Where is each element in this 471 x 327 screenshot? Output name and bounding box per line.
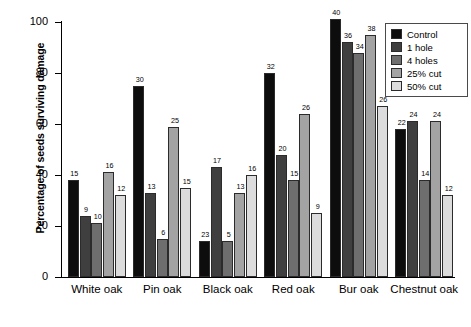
bar[interactable]: 15 — [288, 180, 299, 277]
bar[interactable]: 22 — [395, 129, 406, 277]
bar[interactable]: 23 — [199, 241, 210, 277]
bar[interactable]: 26 — [377, 106, 388, 277]
bar[interactable]: 25 — [168, 127, 179, 277]
y-tick-label: 80 — [0, 66, 48, 78]
bar-group: 159101612 — [68, 22, 126, 277]
bar-value-label: 24 — [426, 111, 448, 119]
bar-group: 322015269 — [264, 22, 322, 277]
bar[interactable]: 38 — [365, 35, 376, 277]
bar[interactable]: 12 — [115, 195, 126, 277]
bar[interactable]: 10 — [91, 223, 102, 277]
bar[interactable]: 26 — [299, 114, 310, 277]
bar[interactable]: 32 — [264, 73, 275, 277]
bar-value-label: 16 — [98, 162, 120, 170]
legend-swatch-icon — [391, 68, 402, 78]
bar-value-label: 12 — [438, 185, 460, 193]
bar[interactable]: 14 — [419, 180, 430, 277]
bar-value-label: 17 — [206, 157, 228, 165]
legend-label: 4 holes — [407, 55, 438, 66]
bar[interactable]: 17 — [211, 167, 222, 277]
bar-value-label: 30 — [129, 76, 151, 84]
bar[interactable]: 12 — [442, 195, 453, 277]
bar-value-label: 12 — [110, 185, 132, 193]
bar[interactable]: 9 — [80, 216, 91, 277]
y-tick-label: 40 — [0, 168, 48, 180]
bar[interactable]: 34 — [353, 53, 364, 277]
bar[interactable]: 36 — [342, 42, 353, 277]
y-tick-label: 100 — [0, 15, 48, 27]
x-axis-line — [61, 277, 455, 278]
bar[interactable]: 9 — [311, 213, 322, 277]
legend-swatch-icon — [391, 81, 402, 91]
bar-value-label: 25 — [164, 117, 186, 125]
bar[interactable]: 15 — [180, 188, 191, 277]
y-tick-label: 20 — [0, 219, 48, 231]
bar-value-label: 15 — [63, 170, 85, 178]
chart-legend: Control1 hole4 holes25% cut50% cut — [385, 23, 468, 97]
y-tick-label: 0 — [0, 270, 48, 282]
legend-item[interactable]: 50% cut — [391, 80, 462, 92]
bar[interactable]: 5 — [222, 241, 233, 277]
legend-item[interactable]: 25% cut — [391, 67, 462, 79]
legend-label: Control — [407, 29, 438, 40]
bar-value-label: 24 — [403, 111, 425, 119]
y-tick-label: 60 — [0, 117, 48, 129]
legend-item[interactable]: 4 holes — [391, 54, 462, 66]
legend-label: 50% cut — [407, 81, 441, 92]
bar[interactable]: 24 — [407, 121, 418, 277]
bar-value-label: 36 — [337, 32, 359, 40]
bar-value-label: 40 — [325, 9, 347, 17]
legend-label: 1 hole — [407, 42, 433, 53]
bar-chart-figure: Percentage of seeds surviving damage 020… — [0, 0, 471, 327]
legend-swatch-icon — [391, 42, 402, 52]
bar[interactable]: 13 — [234, 193, 245, 277]
bar[interactable]: 30 — [133, 86, 144, 277]
legend-swatch-icon — [391, 55, 402, 65]
bar[interactable]: 6 — [157, 239, 168, 277]
bar-value-label: 20 — [272, 145, 294, 153]
bar[interactable]: 16 — [246, 175, 257, 277]
bar-value-label: 13 — [141, 183, 163, 191]
bar-value-label: 32 — [260, 63, 282, 71]
bar-value-label: 26 — [295, 104, 317, 112]
bar-value-label: 16 — [241, 165, 263, 173]
legend-item[interactable]: 1 hole — [391, 41, 462, 53]
bar-value-label: 26 — [372, 96, 394, 104]
bar[interactable]: 40 — [330, 19, 341, 277]
bar-value-label: 38 — [360, 25, 382, 33]
legend-item[interactable]: Control — [391, 28, 462, 40]
bar-group: 301362515 — [133, 22, 191, 277]
legend-label: 25% cut — [407, 68, 441, 79]
bar-group: 231751316 — [199, 22, 257, 277]
bar[interactable]: 24 — [430, 121, 441, 277]
bar-value-label: 15 — [176, 178, 198, 186]
bar-group: 4036343826 — [330, 22, 388, 277]
bar-value-label: 9 — [307, 203, 329, 211]
legend-swatch-icon — [391, 29, 402, 39]
bar[interactable]: 15 — [68, 180, 79, 277]
x-axis-label: Chestnut oak — [374, 283, 471, 295]
